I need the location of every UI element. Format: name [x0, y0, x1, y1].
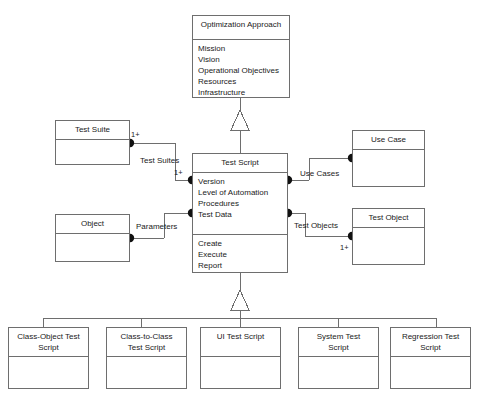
class-attributes-optimization-approach: Mission Vision Operational Objectives Re…	[193, 40, 289, 101]
assoc-mult-test-suite-target: 1+	[174, 168, 183, 177]
class-regression-test-script[interactable]: Regression Test Script	[390, 327, 471, 389]
class-name-use-case: Use Case	[353, 131, 424, 150]
class-ui-test-script[interactable]: UI Test Script	[200, 327, 281, 389]
uml-class-diagram: Optimization Approach Mission Vision Ope…	[0, 0, 479, 419]
assoc-label-test-objects: Test Objects	[294, 221, 338, 230]
assoc-mult-test-suite-source: 1+	[131, 130, 140, 139]
class-test-suite[interactable]: Test Suite	[55, 120, 130, 165]
class-name-object: Object	[56, 215, 129, 234]
class-use-case[interactable]: Use Case	[352, 130, 425, 187]
class-class-to-class-test-script[interactable]: Class-to-Class Test Script	[106, 327, 187, 389]
class-attributes-test-script: Version Level of Automation Procedures T…	[193, 173, 287, 235]
class-name-ui-test-script: UI Test Script	[201, 328, 280, 357]
class-optimization-approach[interactable]: Optimization Approach Mission Vision Ope…	[192, 15, 290, 98]
class-name-test-object: Test Object	[353, 209, 424, 228]
assoc-label-parameters: Parameters	[136, 222, 177, 231]
assoc-label-use-cases: Use Cases	[300, 169, 339, 178]
class-name-test-script: Test Script	[193, 154, 287, 173]
generalization-triangle-optimization	[231, 110, 249, 130]
class-test-script[interactable]: Test Script Version Level of Automation …	[192, 153, 288, 273]
class-name-optimization-approach: Optimization Approach	[193, 16, 289, 40]
class-name-regression-test-script: Regression Test Script	[391, 328, 470, 357]
class-operations-test-script: Create Execute Report	[193, 235, 287, 274]
generalization-triangle-subclasses	[231, 290, 249, 310]
class-class-object-test-script[interactable]: Class-Object Test Script	[8, 327, 89, 389]
class-object[interactable]: Object	[55, 214, 130, 262]
class-name-class-to-class-test-script: Class-to-Class Test Script	[107, 328, 186, 357]
class-name-test-suite: Test Suite	[56, 121, 129, 140]
class-system-test-script[interactable]: System Test Script	[298, 327, 379, 389]
class-name-system-test-script: System Test Script	[299, 328, 378, 357]
assoc-mult-test-object-target: 1+	[340, 243, 349, 252]
class-test-object[interactable]: Test Object	[352, 208, 425, 265]
class-name-class-object-test-script: Class-Object Test Script	[9, 328, 88, 357]
assoc-label-test-suites: Test Suites	[140, 156, 179, 165]
